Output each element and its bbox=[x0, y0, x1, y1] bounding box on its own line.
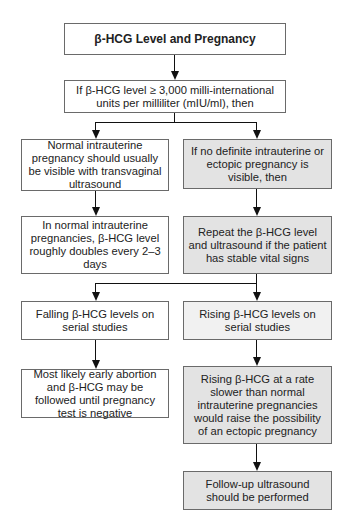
right-step1-box: If no definite intrauterine or ectopic p… bbox=[183, 139, 332, 189]
arrow-down-icon bbox=[253, 130, 261, 139]
falling-result-text: Most likely early abortion and β-HCG may… bbox=[26, 368, 164, 420]
left-step2-box: In normal intrauterine pregnancies, β-HC… bbox=[21, 216, 169, 274]
rising-levels-box: Rising β-HCG levels on serial studies bbox=[183, 301, 332, 340]
arrow-down-icon bbox=[253, 462, 261, 471]
arrow-down-icon bbox=[92, 360, 100, 369]
left-step2-text: In normal intrauterine pregnancies, β-HC… bbox=[26, 219, 164, 271]
followup-box: Follow-up ultrasound should be performed bbox=[183, 471, 332, 510]
rising-levels-text: Rising β-HCG levels on serial studies bbox=[188, 308, 327, 334]
connector-line bbox=[174, 113, 175, 122]
connector-line bbox=[174, 55, 175, 72]
arrow-down-icon bbox=[253, 357, 261, 366]
connector-line bbox=[95, 340, 96, 361]
falling-result-box: Most likely early abortion and β-HCG may… bbox=[21, 369, 169, 418]
connector-line bbox=[256, 444, 257, 463]
title-box: β-HCG Level and Pregnancy bbox=[64, 23, 286, 55]
arrow-down-icon bbox=[253, 292, 261, 301]
arrow-down-icon bbox=[253, 207, 261, 216]
right-step2-text: Repeat the β-HCG level and ultrasound if… bbox=[188, 226, 327, 265]
connector-line bbox=[256, 274, 257, 283]
rising-result-box: Rising β-HCG at a rate slower than norma… bbox=[183, 366, 332, 444]
right-step1-text: If no definite intrauterine or ectopic p… bbox=[188, 145, 327, 184]
arrow-down-icon bbox=[92, 207, 100, 216]
right-step2-box: Repeat the β-HCG level and ultrasound if… bbox=[183, 216, 332, 274]
connector-line bbox=[95, 122, 256, 123]
left-step1-box: Normal intrauterine pregnancy should usu… bbox=[21, 139, 169, 191]
connector-line bbox=[256, 189, 257, 208]
condition-box: If β-HCG level ≥ 3,000 milli-internation… bbox=[64, 80, 286, 113]
arrow-down-icon bbox=[171, 71, 179, 80]
condition-text: If β-HCG level ≥ 3,000 milli-internation… bbox=[69, 84, 281, 110]
left-step1-text: Normal intrauterine pregnancy should usu… bbox=[26, 139, 164, 191]
falling-levels-box: Falling β-HCG levels on serial studies bbox=[21, 301, 169, 340]
arrow-down-icon bbox=[92, 130, 100, 139]
arrow-down-icon bbox=[92, 292, 100, 301]
connector-line bbox=[256, 340, 257, 358]
falling-levels-text: Falling β-HCG levels on serial studies bbox=[26, 308, 164, 334]
rising-result-text: Rising β-HCG at a rate slower than norma… bbox=[188, 373, 327, 438]
connector-line bbox=[95, 191, 96, 208]
connector-line bbox=[95, 283, 257, 284]
title-text: β-HCG Level and Pregnancy bbox=[94, 33, 255, 46]
followup-text: Follow-up ultrasound should be performed bbox=[188, 478, 327, 504]
